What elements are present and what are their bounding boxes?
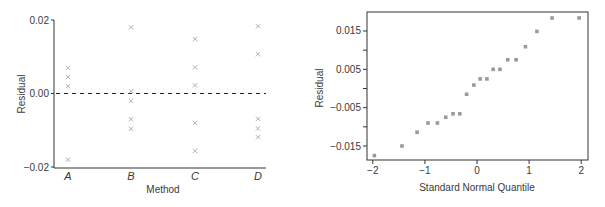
square-marker-icon xyxy=(415,130,419,134)
y-tick-label: −0.015 xyxy=(330,141,361,152)
square-marker-icon xyxy=(426,121,430,125)
x-marker-icon xyxy=(193,37,197,41)
square-marker-icon xyxy=(444,115,448,119)
x-marker-icon xyxy=(66,157,70,161)
x-marker-icon xyxy=(193,121,197,125)
y-tick-label: −0.02 xyxy=(24,162,50,173)
square-marker-icon xyxy=(436,121,440,125)
x-axis-title: Standard Normal Quantile xyxy=(419,182,535,193)
square-marker-icon xyxy=(514,58,518,62)
square-marker-icon xyxy=(550,16,554,20)
y-tick-label: 0.005 xyxy=(336,64,361,75)
y-axis-title: Residual xyxy=(314,69,325,108)
square-marker-icon xyxy=(472,83,476,87)
category-label: D xyxy=(254,170,262,182)
square-marker-icon xyxy=(506,58,510,62)
x-marker-icon xyxy=(129,127,133,131)
square-marker-icon xyxy=(535,30,539,34)
x-marker-icon xyxy=(256,52,260,56)
square-marker-icon xyxy=(465,92,469,96)
y-tick-label: 0.00 xyxy=(30,88,50,99)
y-axis-title: Residual xyxy=(16,75,27,114)
plot-frame xyxy=(367,12,588,160)
square-marker-icon xyxy=(373,154,377,158)
square-marker-icon xyxy=(458,112,462,116)
y-tick-label: 0.02 xyxy=(30,15,50,26)
residual-plots: 0.020.00−0.02 ABCD Method Residual 0.015… xyxy=(0,0,605,207)
quantile-markers xyxy=(373,16,581,157)
square-marker-icon xyxy=(485,77,489,81)
x-marker-icon xyxy=(256,126,260,130)
x-tick-label: −1 xyxy=(419,165,431,176)
category-label: C xyxy=(191,170,199,182)
x-tick-label: 2 xyxy=(578,165,584,176)
x-axis-title: Method xyxy=(146,184,179,195)
normal-quantile-chart: 0.0150.005−0.005−0.015 −2−1012 Standard … xyxy=(314,12,588,193)
x-marker-icon xyxy=(256,135,260,139)
x-marker-icon xyxy=(256,117,260,121)
x-marker-icon xyxy=(66,75,70,79)
square-marker-icon xyxy=(491,68,495,72)
square-marker-icon xyxy=(451,112,455,116)
category-label: A xyxy=(63,170,71,182)
x-marker-icon xyxy=(66,66,70,70)
square-marker-icon xyxy=(400,144,404,148)
y-ticks: 0.020.00−0.02 xyxy=(24,15,54,173)
x-marker-icon xyxy=(193,65,197,69)
x-marker-icon xyxy=(256,24,260,28)
square-marker-icon xyxy=(498,68,502,72)
x-tick-label: 0 xyxy=(474,165,480,176)
y-ticks: 0.0150.005−0.005−0.015 xyxy=(330,25,367,151)
x-tick-label: −2 xyxy=(367,165,379,176)
residual-markers xyxy=(66,24,260,162)
square-marker-icon xyxy=(577,16,581,20)
square-marker-icon xyxy=(478,77,482,81)
x-marker-icon xyxy=(129,117,133,121)
x-marker-icon xyxy=(129,99,133,103)
category-label: B xyxy=(127,170,134,182)
y-tick-label: −0.005 xyxy=(330,102,361,113)
y-tick-label: 0.015 xyxy=(336,25,361,36)
residual-by-method-chart: 0.020.00−0.02 ABCD Method Residual xyxy=(16,15,266,196)
x-marker-icon xyxy=(129,25,133,29)
x-tick-label: 1 xyxy=(526,165,532,176)
x-marker-icon xyxy=(129,89,133,93)
x-marker-icon xyxy=(193,83,197,87)
method-category-labels: ABCD xyxy=(63,170,262,182)
square-marker-icon xyxy=(524,45,528,49)
x-marker-icon xyxy=(193,149,197,153)
x-marker-icon xyxy=(66,84,70,88)
x-ticks: −2−1012 xyxy=(367,160,584,176)
